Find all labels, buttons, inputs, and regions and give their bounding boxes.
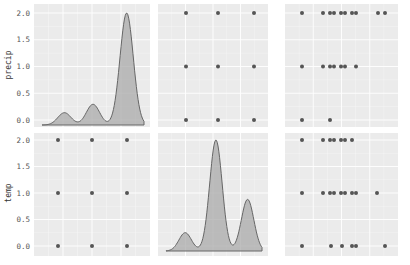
scatter-point: [90, 138, 94, 142]
scatter-point: [321, 138, 325, 142]
scatter-point: [252, 118, 256, 122]
scatter-point: [354, 191, 358, 195]
scatter-point: [300, 244, 304, 248]
scatter-point: [350, 11, 354, 15]
scatter-point: [343, 11, 347, 15]
scatter-point: [300, 11, 304, 15]
scatter-point: [300, 118, 304, 122]
scatter-point: [332, 11, 336, 15]
scatter-point: [354, 65, 358, 69]
scatter-point: [321, 11, 325, 15]
scatter-point: [125, 138, 129, 142]
y-tick-label: 1.5: [16, 35, 30, 44]
scatter-point: [300, 191, 304, 195]
scatter-point: [328, 191, 332, 195]
scatter-point: [184, 65, 188, 69]
y-tick-label: 0.5: [16, 215, 30, 224]
scatter-point: [332, 191, 336, 195]
scatter-point: [354, 11, 358, 15]
scatter-point: [339, 65, 343, 69]
scatter-point: [343, 65, 347, 69]
scatter-point: [90, 244, 94, 248]
scatter-point: [340, 244, 344, 248]
scatter-point: [328, 11, 332, 15]
scatter-point: [339, 191, 343, 195]
scatter-point: [321, 65, 325, 69]
scatter-point: [339, 138, 343, 142]
scatter-point: [328, 118, 332, 122]
row-label-precip: precip: [4, 50, 13, 79]
pairplot-chart: 0.00.51.01.52.00.00.51.01.52.0 precip te…: [0, 0, 410, 265]
scatter-point: [252, 65, 256, 69]
scatter-point: [321, 191, 325, 195]
scatter-point: [350, 191, 354, 195]
y-tick-label: 2.0: [16, 136, 30, 145]
labels-group: precip temp: [4, 50, 13, 202]
scatter-point: [332, 65, 336, 69]
scatter-point: [343, 191, 347, 195]
scatter-point: [90, 191, 94, 195]
scatter-point: [125, 244, 129, 248]
scatter-point: [329, 244, 333, 248]
scatter-point: [332, 138, 336, 142]
scatter-point: [56, 191, 60, 195]
scatter-point: [300, 138, 304, 142]
scatter-point: [350, 244, 354, 248]
scatter-point: [56, 244, 60, 248]
scatter-point: [375, 191, 379, 195]
y-tick-label: 1.0: [16, 189, 30, 198]
scatter-point: [184, 118, 188, 122]
y-tick-label: 2.0: [16, 9, 30, 18]
scatter-point: [343, 138, 347, 142]
scatter-point: [376, 11, 380, 15]
scatter-point: [328, 138, 332, 142]
scatter-point: [328, 65, 332, 69]
scatter-point: [216, 118, 220, 122]
y-tick-label: 1.5: [16, 162, 30, 171]
scatter-point: [350, 138, 354, 142]
y-tick-label: 0.0: [16, 116, 30, 125]
y-tick-label: 1.0: [16, 62, 30, 71]
scatter-point: [56, 138, 60, 142]
panels-group: 0.00.51.01.52.00.00.51.01.52.0: [16, 4, 398, 256]
scatter-point: [125, 191, 129, 195]
y-tick-label: 0.0: [16, 242, 30, 251]
y-tick-label: 0.5: [16, 89, 30, 98]
scatter-point: [383, 244, 387, 248]
scatter-point: [216, 11, 220, 15]
scatter-point: [300, 65, 304, 69]
row-label-temp: temp: [4, 183, 13, 202]
scatter-point: [252, 11, 256, 15]
scatter-point: [184, 11, 188, 15]
scatter-point: [216, 65, 220, 69]
scatter-point: [383, 11, 387, 15]
scatter-point: [354, 244, 358, 248]
scatter-point: [339, 11, 343, 15]
